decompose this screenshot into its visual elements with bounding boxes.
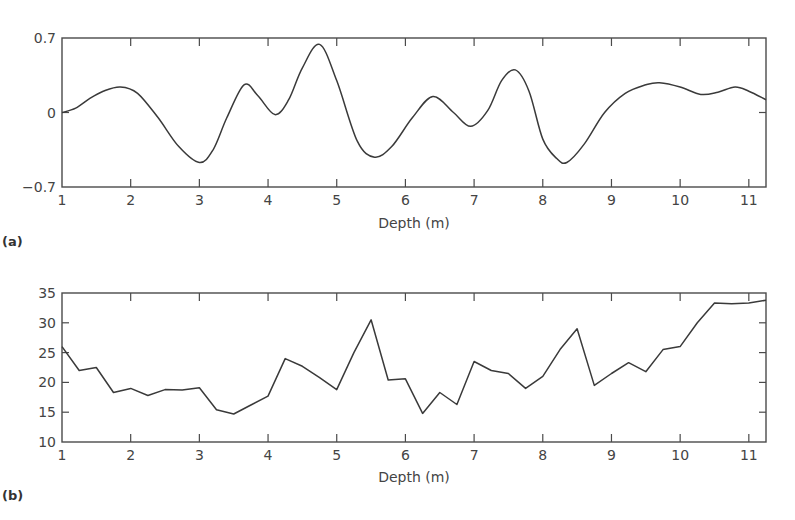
x-tick-label: 8: [538, 192, 547, 208]
panel-a-waveform-line: [62, 44, 766, 163]
x-tick-label: 7: [470, 192, 479, 208]
x-tick-label: 2: [126, 447, 135, 463]
panel-a-y-ticks: 0.70−0.7: [22, 30, 766, 195]
x-tick-label: 2: [126, 192, 135, 208]
panel-a-x-axis-title: Depth (m): [378, 215, 450, 231]
x-tick-label: 6: [401, 447, 410, 463]
x-tick-label: 9: [607, 192, 616, 208]
panel-b-frame: [62, 293, 766, 442]
panel-b-x-ticks: 1234567891011: [58, 293, 758, 463]
x-tick-label: 5: [332, 447, 341, 463]
x-tick-label: 11: [740, 447, 758, 463]
x-tick-label: 3: [195, 447, 204, 463]
x-tick-label: 9: [607, 447, 616, 463]
y-tick-label: 30: [38, 315, 56, 331]
x-tick-label: 6: [401, 192, 410, 208]
panel-b-label: (b): [2, 488, 23, 503]
figure: 1234567891011 0.70−0.7 Depth (m) (a) 123…: [0, 0, 795, 520]
x-tick-label: 7: [470, 447, 479, 463]
y-tick-label: 0: [47, 105, 56, 121]
x-tick-label: 10: [671, 192, 689, 208]
panel-a-frame: [62, 38, 766, 187]
panel-b-chart: 1234567891011 353025201510 Depth (m) (b): [2, 285, 766, 503]
panel-b-data-line: [62, 300, 766, 414]
panel-a-chart: 1234567891011 0.70−0.7 Depth (m) (a): [2, 30, 766, 249]
panel-b-x-axis-title: Depth (m): [378, 469, 450, 485]
x-tick-label: 4: [264, 447, 273, 463]
panel-a-label: (a): [2, 234, 23, 249]
y-tick-label: 15: [38, 404, 56, 420]
x-tick-label: 4: [264, 192, 273, 208]
y-tick-label: 35: [38, 285, 56, 301]
x-tick-label: 10: [671, 447, 689, 463]
x-tick-label: 1: [58, 192, 67, 208]
y-tick-label: 0.7: [34, 30, 56, 46]
panel-b-y-ticks: 353025201510: [38, 285, 766, 450]
x-tick-label: 11: [740, 192, 758, 208]
x-tick-label: 3: [195, 192, 204, 208]
y-tick-label: 10: [38, 434, 56, 450]
y-tick-label: 20: [38, 374, 56, 390]
x-tick-label: 8: [538, 447, 547, 463]
x-tick-label: 5: [332, 192, 341, 208]
y-tick-label: 25: [38, 345, 56, 361]
x-tick-label: 1: [58, 447, 67, 463]
y-tick-label: −0.7: [22, 179, 56, 195]
